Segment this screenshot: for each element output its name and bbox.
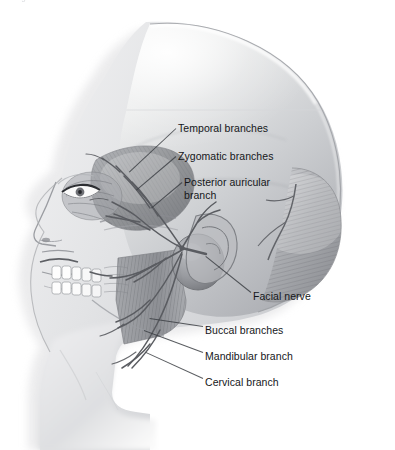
label-mandibular: Mandibular branch <box>205 350 293 363</box>
label-facial_nerve: Facial nerve <box>253 290 311 303</box>
label-cervical: Cervical branch <box>205 376 279 389</box>
label-temporal: Temporal branches <box>178 122 268 135</box>
label-buccal: Buccal branches <box>205 324 283 337</box>
illustration-canvas: Figure — branches of the facial nerve <box>0 0 395 450</box>
label-posterior_auricular: Posterior auricular branch <box>184 176 284 201</box>
label-zygomatic: Zygomatic branches <box>178 150 273 163</box>
nostril <box>42 238 50 242</box>
pupil <box>78 190 82 194</box>
facial-nerve-illustration <box>0 0 395 450</box>
